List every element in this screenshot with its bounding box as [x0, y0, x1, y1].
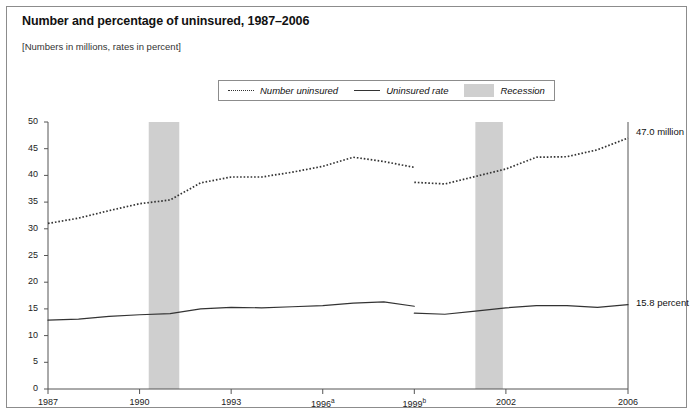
- x-axis-tick-label: 1990: [115, 397, 165, 407]
- series-uninsured-rate: [48, 302, 628, 320]
- chart-figure: Number and percentage of uninsured, 1987…: [0, 0, 693, 414]
- x-axis-tick-label: 1993: [206, 397, 256, 407]
- y-axis-tick-label: 40: [16, 169, 38, 179]
- series-path: [48, 157, 414, 223]
- series-path: [414, 305, 628, 315]
- x-axis-ticks: [48, 389, 628, 394]
- y-axis-tick-label: 25: [16, 250, 38, 260]
- annotation-uninsured-rate: 15.8 percent: [636, 297, 689, 308]
- y-axis-tick-label: 5: [16, 356, 38, 366]
- x-axis-tick-label: 1987: [23, 397, 73, 407]
- series-number-uninsured: [48, 138, 628, 223]
- x-axis-tick-footnote-marker: b: [423, 397, 427, 404]
- series-path: [414, 138, 628, 184]
- recession-band: [475, 122, 502, 389]
- x-axis-tick-label: 1999b: [389, 397, 439, 409]
- x-axis-tick-label: 2002: [481, 397, 531, 407]
- y-axis-tick-label: 10: [16, 330, 38, 340]
- y-axis-tick-label: 0: [16, 383, 38, 393]
- y-axis-tick-label: 30: [16, 223, 38, 233]
- x-axis-tick-label: 1996a: [298, 397, 348, 409]
- y-axis-tick-label: 50: [16, 116, 38, 126]
- plot-area: [0, 0, 693, 414]
- y-axis-tick-label: 20: [16, 276, 38, 286]
- y-axis-tick-label: 35: [16, 196, 38, 206]
- y-axis-tick-label: 15: [16, 303, 38, 313]
- annotation-number-uninsured: 47.0 million: [636, 126, 684, 137]
- series-path: [48, 302, 414, 320]
- recession-bands: [149, 122, 503, 389]
- recession-band: [149, 122, 180, 389]
- y-axis-ticks: [44, 122, 48, 389]
- y-axis-tick-label: 45: [16, 143, 38, 153]
- x-axis-tick-label: 2006: [603, 397, 653, 407]
- x-axis-tick-footnote-marker: a: [331, 397, 335, 404]
